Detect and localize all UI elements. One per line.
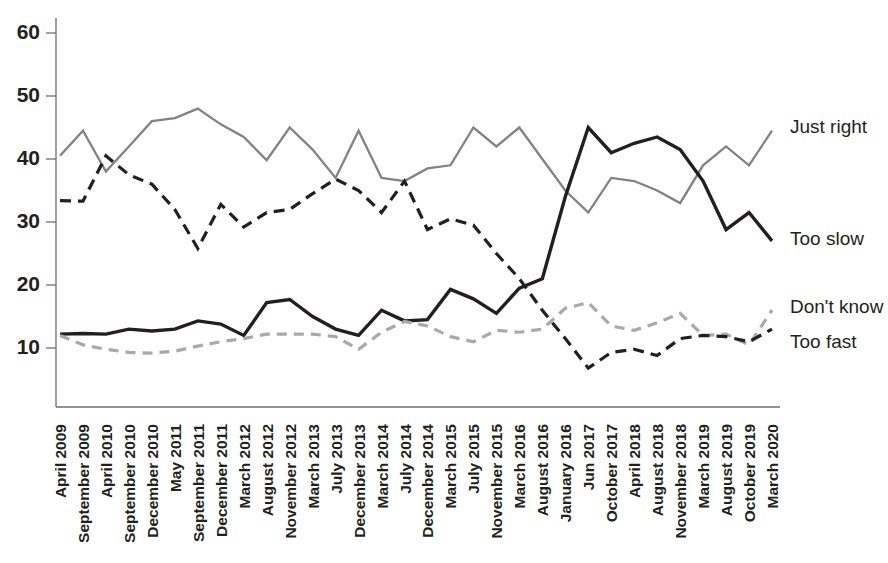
x-tick-label: August 2019	[718, 424, 735, 517]
series-label-don-t-know: Don't know	[790, 296, 884, 317]
x-tick-label: December 2014	[419, 424, 436, 538]
series-label-too-slow: Too slow	[790, 228, 864, 249]
x-tick-label: August 2018	[649, 424, 666, 517]
series-label-just-right: Just right	[790, 116, 868, 137]
x-tick-label: December 2010	[144, 424, 161, 538]
x-tick-label: April 2010	[98, 424, 115, 498]
x-tick-label: October 2017	[603, 424, 620, 522]
x-tick-label: October 2019	[741, 424, 758, 523]
series-lines	[60, 109, 772, 369]
x-tick-label: July 2015	[465, 424, 482, 494]
x-tick-label: January 2016	[557, 424, 574, 523]
x-tick-label: Jun 2017	[580, 424, 597, 490]
chart-container: 102030405060 Just rightToo slowDon't kno…	[0, 0, 888, 563]
x-tick-label: March 2019	[695, 424, 712, 509]
y-tick-label: 20	[17, 272, 40, 295]
series-label-too-fast: Too fast	[790, 331, 857, 352]
x-tick-label: March 2016	[511, 424, 528, 509]
x-tick-label: March 2013	[305, 424, 322, 509]
x-tick-label: July 2013	[328, 424, 345, 494]
y-tick-label: 10	[17, 335, 40, 358]
line-chart: 102030405060 Just rightToo slowDon't kno…	[0, 0, 888, 563]
x-tick-label: September 2010	[121, 424, 138, 543]
x-tick-label: November 2012	[282, 424, 299, 539]
x-tick-label: March 2014	[374, 424, 391, 509]
x-tick-label: March 2015	[442, 424, 459, 509]
x-tick-label: April 2009	[52, 424, 69, 498]
x-tick-label: March 2020	[764, 424, 781, 508]
series-labels: Just rightToo slowDon't knowToo fast	[790, 116, 884, 352]
y-tick-label: 40	[17, 146, 40, 169]
series-line	[60, 303, 772, 353]
x-axis-labels: April 2009September 2009April 2010Septem…	[52, 424, 781, 543]
x-tick-label: December 2013	[351, 424, 368, 538]
series-line	[60, 109, 772, 213]
x-tick-label: April 2018	[626, 424, 643, 498]
x-tick-label: November 2018	[672, 424, 689, 539]
x-tick-label: March 2012	[236, 424, 253, 508]
x-tick-label: August 2016	[534, 424, 551, 517]
x-tick-label: September 2011	[190, 424, 207, 542]
y-tick-label: 30	[17, 209, 40, 232]
x-tick-label: November 2015	[488, 424, 505, 539]
x-tick-label: May 2011	[167, 424, 184, 492]
y-tick-label: 50	[17, 83, 40, 106]
x-tick-label: December 2011	[213, 424, 230, 537]
y-tick-label: 60	[17, 20, 40, 43]
x-tick-label: September 2009	[75, 424, 92, 543]
series-line	[60, 128, 772, 336]
series-line	[60, 156, 772, 368]
x-tick-label: July 2014	[397, 424, 414, 494]
y-axis: 102030405060	[17, 18, 56, 407]
x-tick-label: August 2012	[259, 424, 276, 516]
